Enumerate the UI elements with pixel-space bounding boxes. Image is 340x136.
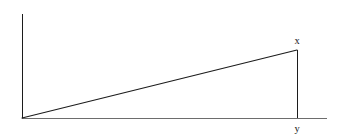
base-vertex-label: y — [294, 123, 300, 134]
triangle-diagram: x y — [0, 0, 340, 136]
apex-vertex-label: x — [294, 35, 300, 46]
figure-background — [0, 0, 340, 136]
figure-container: x y — [0, 0, 340, 136]
